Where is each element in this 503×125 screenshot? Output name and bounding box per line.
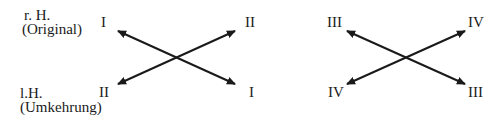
diagram-1-arrows <box>118 31 235 84</box>
crossing-arrows <box>0 0 503 125</box>
diagram-2-arrows <box>347 31 465 84</box>
